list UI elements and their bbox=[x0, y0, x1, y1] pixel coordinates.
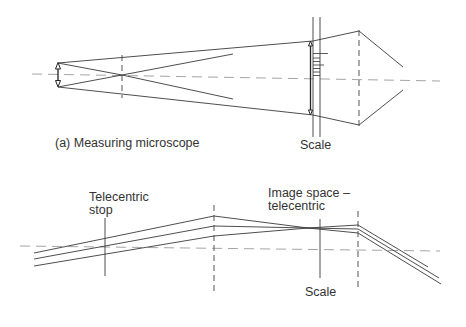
telecentric-stop-label-2: stop bbox=[89, 204, 113, 217]
ray-3-seg-2 bbox=[214, 228, 308, 236]
measuring-microscope-diagram bbox=[32, 17, 440, 137]
ray-2-seg-1 bbox=[34, 226, 214, 259]
ray-cross-down bbox=[122, 75, 233, 99]
ray-3-seg-1 bbox=[34, 236, 214, 266]
ray-obj-bottom bbox=[58, 75, 122, 87]
scale-label-top: Scale bbox=[300, 139, 331, 152]
ray-1-seg-4 bbox=[358, 225, 428, 267]
telecentric-diagram bbox=[20, 205, 441, 293]
image-arrow bbox=[309, 41, 313, 115]
ray-1-seg-3 bbox=[308, 225, 358, 228]
ray-top-left-upper bbox=[58, 41, 313, 63]
ray-2-seg-4 bbox=[358, 229, 439, 278]
ray-cross-up bbox=[122, 54, 233, 75]
scale-graduations bbox=[313, 54, 328, 76]
ray-exit-upper bbox=[359, 31, 403, 67]
optical-diagram bbox=[0, 0, 466, 327]
ray-obj-top bbox=[58, 63, 122, 75]
ray-top-left-lower bbox=[58, 87, 313, 115]
image-space-label-2: telecentric bbox=[268, 200, 325, 213]
scale-label-bottom: Scale bbox=[305, 286, 336, 299]
caption-measuring-microscope: (a) Measuring microscope bbox=[55, 137, 200, 150]
ray-exit-lower bbox=[359, 90, 403, 125]
ray-3-seg-4 bbox=[358, 233, 441, 284]
